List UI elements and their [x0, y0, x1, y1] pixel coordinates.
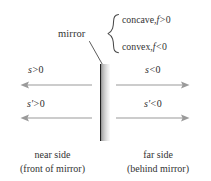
concave-text: concave,: [122, 14, 157, 25]
convex-text: convex,: [122, 41, 153, 52]
mirror-sign-convention-figure: mirror concave,f>0 convex,f<0 s>0 s<0 s′…: [0, 0, 211, 181]
label-image-distance-near: s′>0: [27, 99, 45, 109]
convex-focal-length-label: convex,f<0: [122, 42, 167, 52]
caption-far-side: far side (behind mirror): [105, 148, 211, 175]
sp-right-value: 0: [157, 98, 162, 109]
concave-focal-length-label: concave,f>0: [122, 15, 171, 25]
arrow-right-object-distance: [116, 79, 190, 91]
s-left-relation: >: [32, 64, 39, 75]
label-object-distance-near: s>0: [28, 65, 44, 75]
s-right-relation: <: [149, 64, 156, 75]
mirror-label: mirror: [58, 29, 85, 40]
convex-value: 0: [162, 41, 167, 52]
concave-value: 0: [166, 14, 171, 25]
s-right-value: 0: [156, 64, 161, 75]
sp-right-relation: <: [150, 98, 157, 109]
leader-line: [88, 40, 110, 67]
s-left-value: 0: [39, 64, 44, 75]
far-side-title: far side: [143, 149, 173, 160]
near-side-title: near side: [35, 149, 71, 160]
mirror-surface: [100, 64, 110, 141]
caption-near-side: near side (front of mirror): [0, 148, 105, 175]
far-side-subtitle: (behind mirror): [105, 162, 211, 176]
arrow-left-object-distance: [20, 79, 92, 91]
sp-left-relation: >: [33, 98, 40, 109]
label-image-distance-far: s′<0: [144, 99, 162, 109]
arrow-right-image-distance: [116, 112, 190, 124]
arrow-left-image-distance: [20, 112, 92, 124]
sp-left-value: 0: [40, 98, 45, 109]
near-side-subtitle: (front of mirror): [0, 162, 105, 176]
label-object-distance-far: s<0: [145, 65, 161, 75]
